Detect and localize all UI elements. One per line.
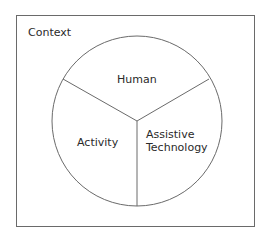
context-label: Context bbox=[28, 26, 71, 39]
segment-activity-label: Activity bbox=[77, 136, 118, 149]
segment-human-label: Human bbox=[117, 73, 157, 86]
segment-technology-line1: Assistive bbox=[146, 128, 208, 141]
segment-technology-line2: Technology bbox=[146, 141, 208, 154]
segment-technology-label: Assistive Technology bbox=[146, 128, 208, 154]
